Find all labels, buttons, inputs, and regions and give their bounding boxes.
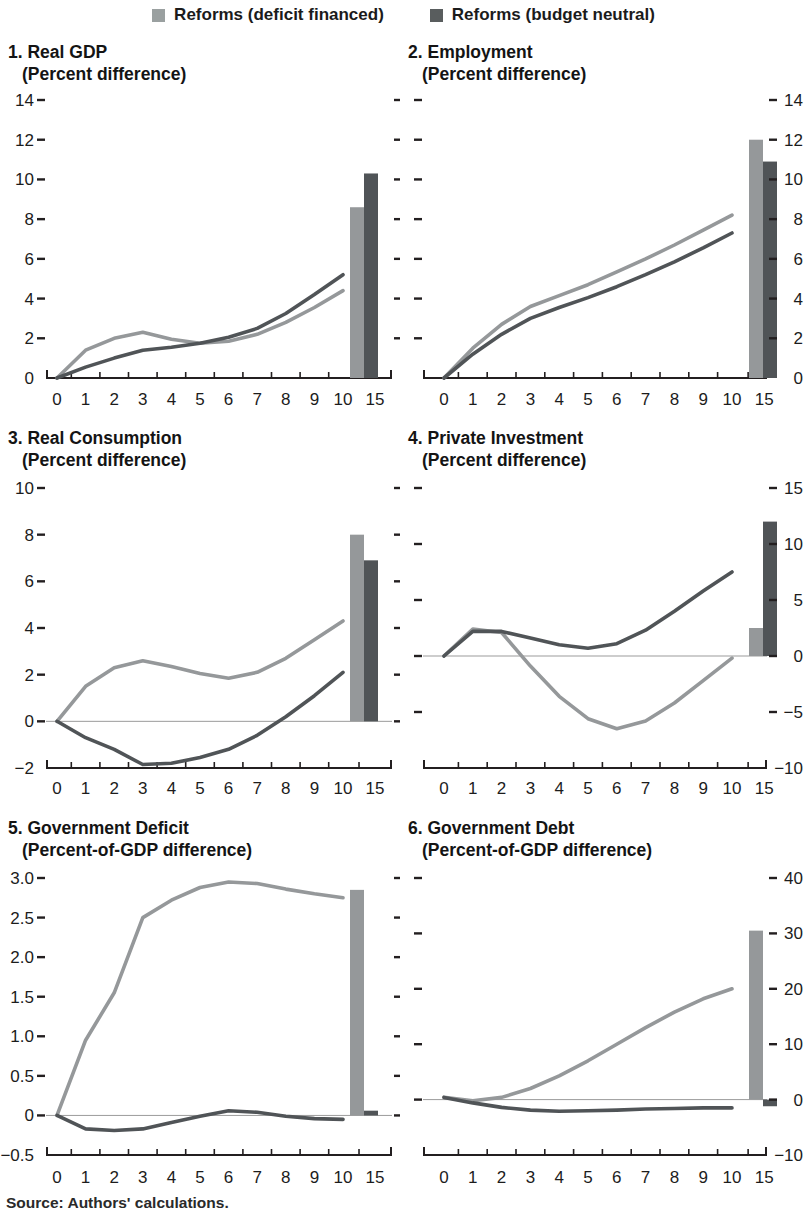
panel-private-investment: 4. Private Investment (Percent differenc… bbox=[400, 425, 807, 803]
svg-text:6: 6 bbox=[224, 779, 233, 798]
svg-text:10: 10 bbox=[15, 479, 34, 498]
svg-text:−5: −5 bbox=[784, 703, 803, 722]
svg-text:4: 4 bbox=[554, 390, 563, 409]
svg-text:0: 0 bbox=[25, 1106, 34, 1125]
panel-title-line1: 2. Employment bbox=[408, 41, 586, 63]
svg-text:4: 4 bbox=[554, 1168, 563, 1187]
svg-text:15: 15 bbox=[366, 390, 385, 409]
svg-text:8: 8 bbox=[281, 779, 290, 798]
svg-text:6: 6 bbox=[794, 250, 803, 269]
svg-text:5: 5 bbox=[583, 1168, 592, 1187]
legend-swatch-dark-icon bbox=[430, 9, 443, 22]
svg-text:4: 4 bbox=[554, 779, 563, 798]
svg-text:2: 2 bbox=[794, 329, 803, 348]
svg-text:3: 3 bbox=[526, 1168, 535, 1187]
svg-text:7: 7 bbox=[252, 1168, 261, 1187]
svg-text:7: 7 bbox=[252, 779, 261, 798]
svg-text:2.0: 2.0 bbox=[10, 948, 34, 967]
panel-title: 2. Employment (Percent difference) bbox=[408, 41, 586, 85]
svg-text:10: 10 bbox=[334, 390, 353, 409]
svg-text:0: 0 bbox=[52, 390, 61, 409]
panel-title-line1: 4. Private Investment bbox=[408, 427, 586, 449]
svg-text:3.0: 3.0 bbox=[10, 869, 34, 888]
svg-text:7: 7 bbox=[641, 390, 650, 409]
svg-text:4: 4 bbox=[167, 1168, 176, 1187]
panel-title: 1. Real GDP (Percent difference) bbox=[8, 41, 186, 85]
svg-text:6: 6 bbox=[612, 1168, 621, 1187]
svg-text:−10: −10 bbox=[774, 759, 803, 778]
svg-text:3: 3 bbox=[526, 779, 535, 798]
panel-subtitle: (Percent difference) bbox=[408, 449, 586, 471]
svg-text:1: 1 bbox=[81, 1168, 90, 1187]
svg-text:6: 6 bbox=[612, 390, 621, 409]
svg-text:2: 2 bbox=[25, 666, 34, 685]
svg-text:−10: −10 bbox=[774, 1146, 803, 1165]
panel-real-gdp: 1. Real GDP (Percent difference) 0246810… bbox=[0, 28, 400, 414]
svg-text:5: 5 bbox=[195, 390, 204, 409]
svg-text:1: 1 bbox=[468, 390, 477, 409]
svg-text:2: 2 bbox=[109, 779, 118, 798]
svg-text:9: 9 bbox=[310, 1168, 319, 1187]
svg-text:8: 8 bbox=[281, 1168, 290, 1187]
legend-swatch-light-icon bbox=[152, 9, 165, 22]
svg-text:6: 6 bbox=[25, 572, 34, 591]
svg-text:6: 6 bbox=[612, 779, 621, 798]
svg-text:12: 12 bbox=[784, 131, 803, 150]
svg-text:4: 4 bbox=[25, 619, 34, 638]
panel-subtitle: (Percent-of-GDP difference) bbox=[408, 839, 652, 861]
svg-text:12: 12 bbox=[15, 131, 34, 150]
svg-text:0: 0 bbox=[794, 1091, 803, 1110]
svg-text:0: 0 bbox=[52, 1168, 61, 1187]
svg-text:6: 6 bbox=[224, 1168, 233, 1187]
svg-text:4: 4 bbox=[25, 290, 34, 309]
panel-title: 6. Government Debt (Percent-of-GDP diffe… bbox=[408, 817, 652, 861]
svg-text:9: 9 bbox=[310, 779, 319, 798]
svg-text:5: 5 bbox=[195, 1168, 204, 1187]
panel-real-consumption-chart: −2024681001234567891015 bbox=[0, 425, 400, 803]
panel-subtitle: (Percent difference) bbox=[408, 63, 586, 85]
panel-title: 4. Private Investment (Percent differenc… bbox=[408, 427, 586, 471]
svg-text:3: 3 bbox=[138, 779, 147, 798]
legend-label: Reforms (budget neutral) bbox=[452, 5, 655, 25]
svg-text:8: 8 bbox=[670, 390, 679, 409]
svg-text:9: 9 bbox=[310, 390, 319, 409]
svg-text:4: 4 bbox=[794, 290, 803, 309]
panel-government-deficit: 5. Government Deficit (Percent-of-GDP di… bbox=[0, 815, 400, 1200]
svg-text:7: 7 bbox=[252, 390, 261, 409]
svg-text:0: 0 bbox=[439, 779, 448, 798]
svg-text:10: 10 bbox=[784, 535, 803, 554]
svg-text:2: 2 bbox=[497, 779, 506, 798]
svg-text:7: 7 bbox=[641, 779, 650, 798]
svg-text:1.0: 1.0 bbox=[10, 1027, 34, 1046]
svg-text:6: 6 bbox=[224, 390, 233, 409]
panel-government-debt: 6. Government Debt (Percent-of-GDP diffe… bbox=[400, 815, 807, 1200]
svg-text:2: 2 bbox=[497, 390, 506, 409]
svg-text:9: 9 bbox=[698, 1168, 707, 1187]
svg-text:15: 15 bbox=[366, 779, 385, 798]
panel-title-line1: 5. Government Deficit bbox=[8, 817, 252, 839]
svg-text:3: 3 bbox=[526, 390, 535, 409]
svg-text:0: 0 bbox=[794, 369, 803, 388]
svg-text:9: 9 bbox=[698, 779, 707, 798]
svg-text:0: 0 bbox=[439, 1168, 448, 1187]
svg-text:2: 2 bbox=[109, 390, 118, 409]
svg-text:7: 7 bbox=[641, 1168, 650, 1187]
svg-text:14: 14 bbox=[15, 91, 34, 110]
svg-text:8: 8 bbox=[794, 210, 803, 229]
svg-text:10: 10 bbox=[723, 1168, 742, 1187]
panel-title: 5. Government Deficit (Percent-of-GDP di… bbox=[8, 817, 252, 861]
svg-text:1: 1 bbox=[468, 1168, 477, 1187]
panel-government-debt-chart: −1001020304001234567891015 bbox=[400, 815, 807, 1200]
panel-real-consumption: 3. Real Consumption (Percent difference)… bbox=[0, 425, 400, 803]
svg-text:2: 2 bbox=[497, 1168, 506, 1187]
panel-title-line1: 6. Government Debt bbox=[408, 817, 652, 839]
svg-text:0: 0 bbox=[25, 712, 34, 731]
svg-text:5: 5 bbox=[195, 779, 204, 798]
svg-text:8: 8 bbox=[25, 526, 34, 545]
panel-title-line1: 3. Real Consumption bbox=[8, 427, 186, 449]
svg-text:0: 0 bbox=[52, 779, 61, 798]
panel-real-gdp-chart: 0246810121401234567891015 bbox=[0, 28, 400, 414]
svg-text:1: 1 bbox=[81, 390, 90, 409]
svg-text:14: 14 bbox=[784, 91, 803, 110]
panel-employment-chart: 0246810121401234567891015 bbox=[400, 28, 807, 414]
